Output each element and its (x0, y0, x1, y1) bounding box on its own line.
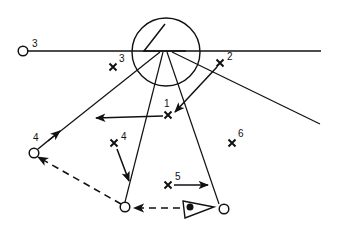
lookout-circle (132, 18, 200, 86)
solid-arrow-1 (38, 131, 60, 149)
cross-marker-4 (111, 140, 118, 147)
flag-dot-icon (187, 204, 194, 211)
lookout-triangle-icon (144, 24, 186, 51)
dashed-arrow-1 (38, 157, 121, 204)
sight-ray-2 (125, 52, 163, 202)
cross-marker-2 (217, 60, 224, 67)
solid-arrow-4 (117, 149, 129, 181)
sight-ray-4 (172, 52, 320, 124)
cross-label-1: 1 (164, 98, 170, 109)
cross-marker-5 (165, 182, 172, 189)
cross-marker-1 (165, 112, 172, 119)
open-circle-3 (18, 46, 28, 56)
cross-label-2: 2 (227, 51, 233, 62)
cross-label-5: 5 (175, 171, 181, 182)
points-layer: 34123456 (18, 38, 244, 214)
cross-marker-6 (229, 140, 236, 147)
cross-marker-3 (110, 64, 117, 71)
cross-label-4: 4 (121, 131, 127, 142)
solid-arrow-2 (96, 116, 163, 118)
open-circle-label-4: 4 (33, 132, 39, 143)
open-circle-4 (29, 148, 39, 158)
open-circle-label-3: 3 (32, 38, 38, 49)
lookout-symbol (132, 18, 200, 86)
flag-symbol (183, 201, 214, 218)
solid-arrow-3 (175, 67, 217, 112)
open-circle-right (219, 204, 229, 214)
lines-layer (27, 51, 321, 204)
arrows-layer (38, 67, 217, 208)
cross-label-6: 6 (238, 128, 244, 139)
sight-ray-1 (48, 52, 160, 141)
open-circle-bottom (120, 202, 130, 212)
diagram-canvas: 34123456 (0, 0, 337, 230)
diagram-svg: 34123456 (0, 0, 337, 230)
cross-label-3: 3 (119, 53, 125, 64)
